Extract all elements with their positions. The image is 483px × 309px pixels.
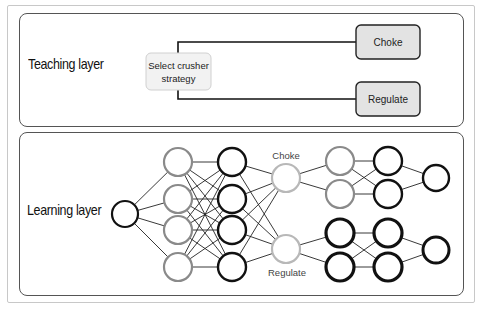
hidden1-node xyxy=(164,185,192,213)
select-strategy-node: Select crusher strategy xyxy=(146,53,211,90)
regulate-branch-label: Regulate xyxy=(268,267,306,278)
regulate-branch-node xyxy=(374,219,402,247)
regulate-option-node: Regulate xyxy=(356,82,420,116)
network-nodes xyxy=(112,147,449,281)
choke-branch-node xyxy=(326,180,354,208)
select-strategy-line1: Select crusher xyxy=(148,60,209,71)
regulate-strategy-node xyxy=(272,235,300,263)
regulate-branch-node xyxy=(326,219,354,247)
hidden2-node xyxy=(218,216,246,244)
hidden2-node xyxy=(218,185,246,213)
hidden1-node xyxy=(164,253,192,281)
choke-branch-node xyxy=(374,147,402,175)
choke-branch-label: Choke xyxy=(272,150,299,161)
diagram-canvas: Select crusher strategy Choke Regulate xyxy=(0,0,483,309)
choke-option-label: Choke xyxy=(374,37,403,48)
hidden2-node xyxy=(218,253,246,281)
hidden1-node xyxy=(164,148,192,176)
connector-to-choke xyxy=(178,42,356,54)
hidden2-node xyxy=(218,148,246,176)
choke-branch-node xyxy=(374,180,402,208)
regulate-branch-node xyxy=(374,253,402,281)
choke-output-node xyxy=(423,165,449,191)
select-strategy-line2: strategy xyxy=(162,73,196,84)
regulate-output-node xyxy=(423,237,449,263)
choke-branch-node xyxy=(326,147,354,175)
connector-to-regulate xyxy=(178,90,356,99)
regulate-branch-node xyxy=(326,253,354,281)
regulate-option-label: Regulate xyxy=(368,94,408,105)
input-node xyxy=(112,201,138,227)
hidden1-node xyxy=(164,216,192,244)
choke-strategy-node xyxy=(272,164,300,192)
choke-option-node: Choke xyxy=(356,25,420,59)
